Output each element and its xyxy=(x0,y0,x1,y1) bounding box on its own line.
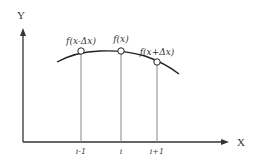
x-axis-arrow-icon xyxy=(221,139,229,145)
point-f-x-minus-dx xyxy=(78,48,84,54)
finite-difference-diagram: Y X f(x-Δx) f(x) f(x+Δx) i-1 i i+1 xyxy=(0,0,255,163)
label-f-x-plus-dx: f(x+Δx) xyxy=(139,47,175,57)
tick-label-i-minus-1: i-1 xyxy=(76,147,86,156)
y-axis-arrow-icon xyxy=(20,28,26,36)
point-f-x-plus-dx xyxy=(154,59,160,65)
point-f-x xyxy=(118,48,124,54)
tick-label-i-plus-1: i+1 xyxy=(150,147,164,156)
x-axis-label: X xyxy=(237,136,245,148)
label-f-x-minus-dx: f(x-Δx) xyxy=(65,36,96,46)
label-f-x: f(x) xyxy=(112,34,129,44)
y-axis-label: Y xyxy=(17,9,25,21)
tick-label-i: i xyxy=(120,147,123,156)
